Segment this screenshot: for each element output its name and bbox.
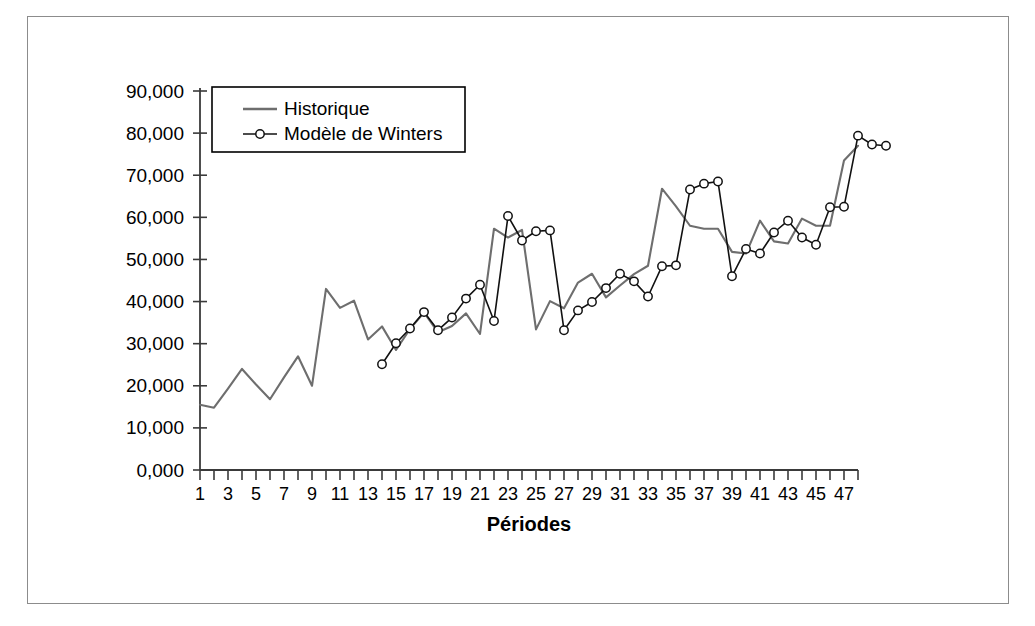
data-point-marker xyxy=(406,324,414,332)
x-axis: 1357911131517192123252729313335373941434… xyxy=(195,470,858,504)
data-point-marker xyxy=(392,339,400,347)
data-point-marker xyxy=(630,277,638,285)
data-point-marker xyxy=(532,227,540,235)
legend: Historique Modèle de Winters xyxy=(212,87,465,152)
x-tick-label: 35 xyxy=(666,484,686,504)
data-point-marker xyxy=(812,241,820,249)
plot-area xyxy=(200,131,890,407)
x-tick-label: 15 xyxy=(386,484,406,504)
x-tick-label: 23 xyxy=(498,484,518,504)
data-point-marker xyxy=(574,306,582,314)
x-tick-label: 17 xyxy=(414,484,434,504)
data-point-marker xyxy=(756,249,764,257)
data-point-marker xyxy=(826,203,834,211)
x-tick-label: 9 xyxy=(307,484,317,504)
data-point-marker xyxy=(728,272,736,280)
y-tick-label: 60,000 xyxy=(126,207,184,228)
data-point-marker xyxy=(784,217,792,225)
data-point-marker xyxy=(868,140,876,148)
x-tick-label: 13 xyxy=(358,484,378,504)
data-point-marker xyxy=(714,177,722,185)
series-line-modele-de-winters xyxy=(382,136,886,365)
y-tick-label: 30,000 xyxy=(126,333,184,354)
x-axis-tick-labels: 1357911131517192123252729313335373941434… xyxy=(195,484,854,504)
data-point-marker xyxy=(434,326,442,334)
data-point-marker xyxy=(504,212,512,220)
x-tick-label: 5 xyxy=(251,484,261,504)
x-tick-label: 25 xyxy=(526,484,546,504)
x-tick-label: 33 xyxy=(638,484,658,504)
data-point-marker xyxy=(546,226,554,234)
y-tick-label: 50,000 xyxy=(126,249,184,270)
data-point-marker xyxy=(840,203,848,211)
series-markers-modele-de-winters xyxy=(378,131,890,368)
data-point-marker xyxy=(686,185,694,193)
x-tick-label: 47 xyxy=(834,484,854,504)
y-tick-label: 70,000 xyxy=(126,165,184,186)
figure-root: 0,00010,00020,00030,00040,00050,00060,00… xyxy=(0,0,1035,626)
data-point-marker xyxy=(476,281,484,289)
x-tick-label: 43 xyxy=(778,484,798,504)
data-point-marker xyxy=(658,262,666,270)
y-axis-tick-labels: 0,00010,00020,00030,00040,00050,00060,00… xyxy=(126,81,184,481)
data-point-marker xyxy=(770,228,778,236)
x-tick-label: 37 xyxy=(694,484,714,504)
data-point-marker xyxy=(700,179,708,187)
data-point-marker xyxy=(644,292,652,300)
data-point-marker xyxy=(742,245,750,253)
legend-marker-circle-icon xyxy=(256,130,264,138)
x-tick-label: 45 xyxy=(806,484,826,504)
y-tick-label: 40,000 xyxy=(126,291,184,312)
data-point-marker xyxy=(854,131,862,139)
data-point-marker xyxy=(882,142,890,150)
x-tick-label: 1 xyxy=(195,484,205,504)
legend-label-modele-de-winters: Modèle de Winters xyxy=(284,123,442,144)
x-tick-label: 29 xyxy=(582,484,602,504)
y-tick-label: 80,000 xyxy=(126,123,184,144)
x-axis-title: Périodes xyxy=(487,513,571,535)
y-tick-label: 90,000 xyxy=(126,81,184,102)
x-tick-label: 21 xyxy=(470,484,490,504)
data-point-marker xyxy=(798,233,806,241)
line-chart: 0,00010,00020,00030,00040,00050,00060,00… xyxy=(0,0,1035,626)
x-axis-ticks xyxy=(200,470,858,480)
data-point-marker xyxy=(518,236,526,244)
data-point-marker xyxy=(448,313,456,321)
x-tick-label: 11 xyxy=(331,484,350,504)
data-point-marker xyxy=(616,270,624,278)
data-point-marker xyxy=(560,326,568,334)
x-tick-label: 27 xyxy=(554,484,574,504)
series-line-historique xyxy=(200,146,858,408)
data-point-marker xyxy=(490,317,498,325)
x-tick-label: 39 xyxy=(722,484,742,504)
data-point-marker xyxy=(462,294,470,302)
data-point-marker xyxy=(420,308,428,316)
legend-label-historique: Historique xyxy=(284,98,370,119)
data-point-marker xyxy=(588,298,596,306)
y-tick-label: 0,000 xyxy=(136,460,184,481)
x-tick-label: 19 xyxy=(442,484,462,504)
data-point-marker xyxy=(602,284,610,292)
y-tick-label: 20,000 xyxy=(126,375,184,396)
y-tick-label: 10,000 xyxy=(126,417,184,438)
data-point-marker xyxy=(378,360,386,368)
y-axis: 0,00010,00020,00030,00040,00050,00060,00… xyxy=(126,81,207,481)
x-tick-label: 3 xyxy=(223,484,233,504)
x-tick-label: 41 xyxy=(750,484,770,504)
x-tick-label: 7 xyxy=(279,484,289,504)
data-point-marker xyxy=(672,261,680,269)
x-tick-label: 31 xyxy=(610,484,630,504)
